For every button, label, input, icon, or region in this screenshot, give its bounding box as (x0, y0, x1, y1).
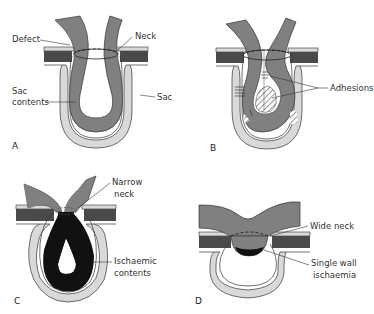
label-sac-contents-2: contents (12, 97, 50, 107)
label-narrow-neck-2: neck (114, 189, 134, 199)
panel-d: Wide neck Single wall ischaemia D (195, 202, 357, 306)
label-single-wall-1: Single wall (311, 258, 357, 268)
hernia-diagram: Defect Neck Sac contents Sac A (0, 0, 374, 314)
label-ischaemic-2: contents (114, 268, 152, 278)
panel-letter-d: D (195, 296, 202, 306)
label-sac-contents-1: Sac (12, 86, 28, 96)
label-neck: Neck (135, 31, 156, 41)
panel-letter-a: A (12, 141, 19, 151)
label-defect: Defect (12, 34, 41, 44)
label-narrow-neck-1: Narrow (112, 177, 142, 187)
panel-c: Narrow neck Ischaemic contents C (14, 176, 157, 306)
label-single-wall-2: ischaemia (313, 270, 356, 280)
panel-a: Defect Neck Sac contents Sac A (12, 16, 173, 151)
panel-letter-c: C (14, 296, 20, 306)
panel-letter-b: B (210, 143, 216, 153)
panel-b: Adhesions B (210, 18, 374, 153)
label-ischaemic-1: Ischaemic (114, 256, 157, 266)
label-wide-neck: Wide neck (310, 221, 354, 231)
label-sac: Sac (157, 92, 173, 102)
label-adhesions: Adhesions (330, 83, 374, 93)
